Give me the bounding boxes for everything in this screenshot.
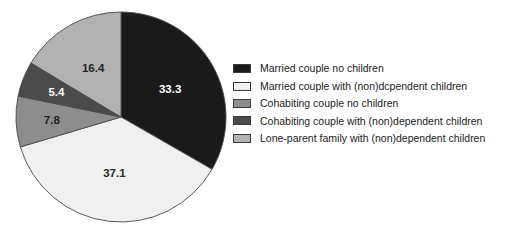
legend-color-swatch [233, 64, 251, 73]
legend-color-swatch [233, 116, 251, 125]
pie-chart-figure: 33.337.17.85.416.4 Married couple no chi… [0, 0, 506, 231]
chart-legend: Married couple no childrenMarried couple… [233, 60, 495, 147]
legend-item: Cohabiting couple no children [233, 95, 495, 112]
pie-chart-plot-area: 33.337.17.85.416.4 [14, 10, 228, 224]
legend-item: Lone-parent family with (non)dependent c… [233, 130, 495, 147]
legend-item-label: Cohabiting couple with (non)dependent ch… [260, 116, 482, 127]
legend-item-label: Cohabiting couple no children [260, 98, 398, 109]
legend-item-label: Married couple with (non)dcpendent child… [260, 81, 467, 92]
legend-item-label: Married couple no children [260, 63, 384, 74]
pie-slice-value-label: 37.1 [103, 167, 126, 179]
pie-chart-svg: 33.337.17.85.416.4 [14, 10, 228, 224]
legend-color-swatch [233, 82, 251, 91]
legend-item: Married couple with (non)dcpendent child… [233, 77, 495, 94]
legend-color-swatch [233, 134, 251, 143]
pie-slice-value-label: 5.4 [48, 86, 65, 98]
legend-item: Cohabiting couple with (non)dependent ch… [233, 112, 495, 129]
pie-slice-value-label: 16.4 [82, 62, 105, 74]
legend-item: Married couple no children [233, 60, 495, 77]
legend-color-swatch [233, 99, 251, 108]
pie-slice-value-label: 7.8 [44, 114, 61, 126]
pie-slice-value-label: 33.3 [159, 83, 181, 95]
legend-item-label: Lone-parent family with (non)dependent c… [260, 133, 485, 144]
